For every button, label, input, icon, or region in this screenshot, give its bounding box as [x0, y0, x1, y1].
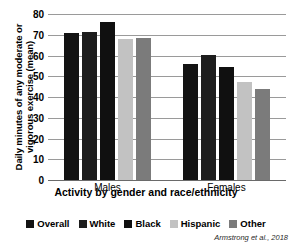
legend-item-white[interactable]: White: [79, 218, 116, 229]
bar-males-overall: [64, 33, 80, 180]
legend-swatch-overall: [26, 220, 34, 228]
y-tick-label-70: 70: [33, 29, 44, 40]
legend-swatch-hispanic: [170, 220, 178, 228]
chart-figure: Daily minutes of any moderate or vigorou…: [0, 0, 292, 246]
y-tick-label-80: 80: [33, 9, 44, 20]
legend-item-black[interactable]: Black: [124, 218, 160, 229]
chart-legend: OverallWhiteBlackHispanicOther: [0, 218, 292, 229]
chart-title-cropped: [0, 0, 292, 4]
x-axis-title: Activity by gender and race/ethnicity: [0, 186, 292, 198]
legend-swatch-white: [79, 220, 87, 228]
y-tick-label-30: 30: [33, 112, 44, 123]
bar-males-hispanic: [118, 39, 134, 181]
legend-label-hispanic: Hispanic: [181, 218, 221, 229]
legend-swatch-black: [124, 220, 132, 228]
legend-item-overall[interactable]: Overall: [26, 218, 69, 229]
y-tick-label-50: 50: [33, 71, 44, 82]
bar-females-hispanic: [237, 82, 253, 180]
source-attribution: Armstrong et al., 2018: [214, 233, 288, 242]
bar-males-white: [82, 32, 98, 180]
bar-females-overall: [183, 64, 199, 180]
y-tick-label-0: 0: [38, 175, 44, 186]
bar-males-black: [100, 22, 116, 180]
bar-females-white: [201, 55, 217, 180]
y-tick-label-40: 40: [33, 92, 44, 103]
y-tick-label-60: 60: [33, 50, 44, 61]
y-axis-title: Daily minutes of any moderate or vigorou…: [13, 7, 35, 187]
legend-label-other: Other: [240, 218, 265, 229]
legend-label-overall: Overall: [37, 218, 69, 229]
gridline-0: [48, 180, 286, 181]
bar-females-black: [219, 67, 235, 180]
y-tick-label-10: 10: [33, 154, 44, 165]
legend-label-black: Black: [135, 218, 160, 229]
legend-item-other[interactable]: Other: [229, 218, 265, 229]
legend-swatch-other: [229, 220, 237, 228]
legend-item-hispanic[interactable]: Hispanic: [170, 218, 221, 229]
gridline-80: [48, 14, 286, 15]
plot-area: 80706050403020100 MalesFemales: [48, 14, 286, 180]
y-tick-label-20: 20: [33, 133, 44, 144]
legend-label-white: White: [90, 218, 116, 229]
bar-females-other: [255, 89, 271, 180]
bar-males-other: [136, 38, 152, 180]
